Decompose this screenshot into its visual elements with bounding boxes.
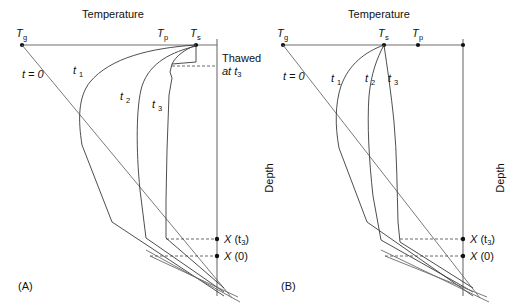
panel-a: Temperature T g T p T s t = 0 t 1 t 2 t … [0, 0, 261, 308]
panel-b-axis-title: Temperature [348, 8, 410, 20]
panel-a-curve-label-t2-subscript: 2 [126, 96, 130, 105]
panel-a-curve-t1 [80, 45, 224, 296]
panel-a-marker-x-0 [215, 254, 219, 258]
panel-a-label-tp-subscript: p [164, 33, 168, 42]
panel-a-annotation-thawed-line2: at t3 [222, 65, 241, 79]
panel-a-label-ts-subscript: s [197, 33, 201, 42]
panel-a-curve-label-t2: t [120, 90, 124, 102]
panel-b-curve-t1 [336, 45, 473, 296]
panel-b-curve-t0 [283, 45, 480, 298]
panel-b-curve-label-t3: t [388, 72, 392, 84]
panel-a-label-x-t3: X (t3) [223, 233, 249, 247]
figure-container: Temperature T g T p T s t = 0 t 1 t 2 t … [0, 0, 522, 308]
panel-b-curve-label-t0: t = 0 [283, 70, 306, 82]
panel-a-label-tg-subscript: g [23, 33, 27, 42]
panel-b-curve-label-t1-subscript: 1 [337, 78, 341, 87]
panel-b-marker-x-t3 [461, 237, 465, 241]
panel-a-curve-t3-plateau [172, 46, 196, 64]
panel-b: Temperature T g T s T p Depth Depth t = … [261, 0, 522, 308]
panel-b-label-x-0: X (0) [469, 250, 494, 262]
panel-b-curve-label-t2: t [365, 72, 369, 84]
panel-b-label-tg-subscript: g [284, 33, 288, 42]
panel-a-marker-x-t3 [215, 237, 219, 241]
panel-a-curve-t0 [22, 45, 232, 298]
panel-a-annotation-thawed-line1: Thawed [222, 52, 261, 64]
panel-a-axis-title: Temperature [82, 8, 144, 20]
panel-a-curve-t2 [137, 46, 224, 292]
panel-b-depth-label-left: Depth [263, 163, 275, 192]
panel-a-curve-label-t1: t [73, 64, 77, 76]
panel-b-label-ts-subscript: s [385, 33, 389, 42]
panel-a-curve-label-t3: t [152, 98, 156, 110]
panel-b-marker-right-axis [461, 43, 465, 47]
panel-b-label-tp-subscript: p [419, 33, 423, 42]
panel-a-curve-label-t3-subscript: 3 [158, 104, 162, 113]
panel-b-curve-label-t3-subscript: 3 [394, 78, 398, 87]
panel-b-label: (B) [281, 280, 296, 292]
panel-a-curve-t3 [166, 45, 224, 288]
panel-b-marker-tp [416, 43, 420, 47]
panel-a-curve-label-t1-subscript: 1 [79, 70, 83, 79]
panel-a-curve-label-t0: t = 0 [22, 68, 45, 80]
panel-b-envelope-line-2 [385, 256, 487, 297]
panel-a-label: (A) [18, 280, 33, 292]
panel-b-depth-label-right: Depth [494, 163, 506, 192]
panel-a-label-x-0: X (0) [223, 250, 248, 262]
panel-b-label-x-t3: X (t3) [469, 233, 495, 247]
panel-b-curve-label-t2-subscript: 2 [371, 78, 375, 87]
panel-b-curve-label-t1: t [331, 72, 335, 84]
panel-b-marker-x-0 [461, 254, 465, 258]
